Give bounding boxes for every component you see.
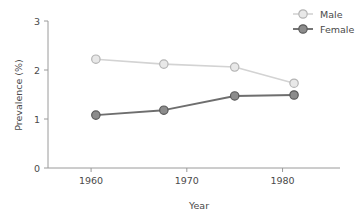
x-axis-ticks [91,168,282,172]
data-point[interactable]: Female: 1.08 [92,111,100,119]
data-point[interactable]: Female: 1.49 [290,91,298,99]
x-tick-label: 1980 [270,175,294,186]
legend-item-male[interactable]: Male [293,9,343,20]
data-point[interactable]: Male: 2.12 [160,60,168,68]
y-tick-label: 0 [34,163,40,174]
y-tick-label: 1 [34,114,40,125]
series-female: Female: 1.08Female: 1.18Female: 1.47Fema… [92,91,299,119]
line-chart: 0123 196019701980 Year Prevalence (%) Ma… [0,0,362,217]
series-line [96,95,294,115]
y-tick-label: 2 [34,65,40,76]
y-axis-title: Prevalence (%) [13,59,24,131]
data-point[interactable]: Male: 2.06 [230,63,238,71]
data-point[interactable]: Female: 1.18 [160,106,168,114]
chart-legend: MaleFemale [293,9,355,35]
data-point[interactable]: Male: 2.22 [92,55,100,63]
chart-container: 0123 196019701980 Year Prevalence (%) Ma… [0,0,362,217]
x-tick-label: 1970 [175,175,199,186]
x-axis-tick-labels: 196019701980 [79,175,295,186]
legend-label: Female [320,24,355,35]
data-series-layer: Male: 2.22Male: 2.12Male: 2.06Male: 1.73… [92,55,299,119]
y-axis-tick-labels: 0123 [34,16,40,174]
legend-marker-icon [299,10,307,18]
y-axis-ticks [44,21,48,168]
data-point[interactable]: Female: 1.47 [230,92,238,100]
x-tick-label: 1960 [79,175,103,186]
series-line [96,59,294,83]
legend-item-female[interactable]: Female [293,24,355,35]
legend-marker-icon [299,25,307,33]
x-axis-title: Year [188,200,209,211]
data-point[interactable]: Male: 1.73 [290,79,298,87]
series-male: Male: 2.22Male: 2.12Male: 2.06Male: 1.73 [92,55,299,87]
legend-label: Male [320,9,343,20]
y-tick-label: 3 [34,16,40,27]
